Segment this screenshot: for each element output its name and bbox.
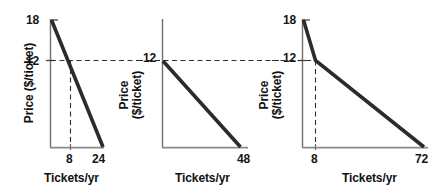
y-axis-title-right: Price ($/ticket) — [258, 50, 284, 140]
y-tick-label-18-left: 18 — [26, 13, 39, 27]
chart-panel-right: 18 12 8 72 Price ($/ticket) Tickets/yr — [280, 0, 445, 195]
x-axis-title-right: Tickets/yr — [342, 171, 397, 185]
x-tick-label-72-right: 72 — [415, 152, 428, 166]
x-axis-title-middle: Tickets/yr — [175, 171, 230, 185]
demand-curve-right — [304, 20, 425, 147]
y-axis-title-middle: Price ($/ticket) — [118, 50, 144, 140]
figure-canvas: 18 12 8 24 Price ($/ticket) Tickets/yr 1… — [0, 0, 445, 195]
y-axis-title-right-line1: Price — [257, 81, 271, 110]
y-tick-label-18-right: 18 — [283, 13, 296, 27]
y-tick-label-12-middle: 12 — [143, 51, 156, 65]
y-axis-title-right-line2: ($/ticket) — [270, 71, 284, 119]
x-tick-label-8-left: 8 — [66, 152, 72, 166]
x-tick-label-48-middle: 48 — [237, 152, 250, 166]
y-axis-title-middle-line2: ($/ticket) — [130, 71, 144, 119]
x-axis-title-left: Tickets/yr — [44, 171, 99, 185]
y-tick-label-12-right: 12 — [283, 51, 296, 65]
y-axis-title-left: Price ($/ticket) — [23, 33, 36, 133]
demand-curve-left — [52, 20, 104, 147]
y-axis-title-middle-line1: Price — [117, 81, 131, 110]
demand-curve-middle — [163, 61, 241, 147]
x-tick-label-8-right: 8 — [311, 152, 317, 166]
x-tick-label-24-left: 24 — [92, 152, 105, 166]
